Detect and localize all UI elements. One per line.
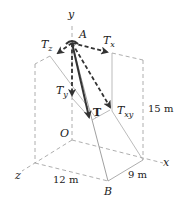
- vector-tz: [58, 43, 72, 53]
- t-label: T: [93, 107, 101, 118]
- vector-txy: [72, 43, 110, 107]
- z-length-dimension: 12 m: [53, 175, 78, 185]
- frame-left-top: [35, 56, 50, 64]
- x-axis-label: x: [163, 157, 169, 168]
- tx-label: Tx: [103, 35, 115, 49]
- z-axis-label: z: [15, 170, 21, 181]
- point-b-label: B: [104, 186, 112, 197]
- height-dimension: 15 m: [148, 104, 173, 114]
- tz-label: Tz: [41, 39, 53, 53]
- txy-sub: xy: [124, 110, 133, 119]
- ty-sub: y: [63, 90, 68, 99]
- txy-label: Txy: [117, 105, 133, 119]
- x-length-dimension: 9 m: [128, 170, 147, 180]
- z-axis: [22, 140, 72, 171]
- tz-sub: z: [48, 44, 52, 53]
- tx-sub: x: [110, 40, 115, 49]
- origin-label: O: [60, 128, 69, 139]
- x-axis: [72, 140, 163, 163]
- vector-t: [72, 43, 89, 117]
- point-a-label: A: [79, 29, 87, 40]
- y-axis-label: y: [68, 9, 74, 20]
- ty-label: Ty: [56, 85, 68, 99]
- frame-right-top: [112, 53, 143, 60]
